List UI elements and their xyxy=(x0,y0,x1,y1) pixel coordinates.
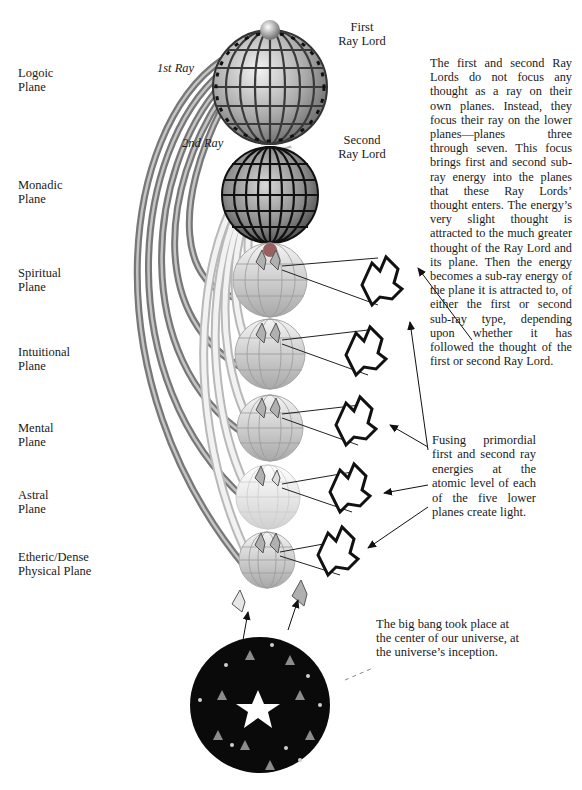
lower-plane-globes xyxy=(233,243,307,588)
plane-label-monadic: Monadic Plane xyxy=(18,178,62,206)
first-ray-lord-label: First Ray Lord xyxy=(326,20,398,48)
plane-label-intuitional: Intuitional Plane xyxy=(18,345,70,373)
plane-label-etheric: Etheric/Dense Physical Plane xyxy=(18,550,91,578)
crown-knob xyxy=(260,20,280,40)
intuitional-globe xyxy=(235,319,305,389)
astral-globe xyxy=(236,465,300,529)
plane-label-logoic: Logoic Plane xyxy=(18,66,53,94)
ray-lords-description: The first and second Ray Lords do not fo… xyxy=(430,56,572,368)
plane-label-astral: Astral Plane xyxy=(18,488,49,516)
big-bang-leader xyxy=(345,668,373,680)
plane-label-mental: Mental Plane xyxy=(18,421,53,449)
universe-disc xyxy=(190,637,330,773)
second-ray-lord-label: Second Ray Lord xyxy=(326,133,398,161)
big-bang-note: The big bang took place at the center of… xyxy=(376,617,526,659)
second-ray-lord-globe xyxy=(222,147,318,243)
first-ray-label: 1st Ray xyxy=(157,61,194,76)
second-ray-label: 2nd Ray xyxy=(182,136,223,151)
etheric-globe xyxy=(239,532,295,588)
spiritual-globe xyxy=(233,243,307,317)
plane-label-spiritual: Spiritual Plane xyxy=(18,266,61,294)
first-ray-lord-globe xyxy=(213,20,327,144)
mental-globe xyxy=(237,395,303,461)
fusing-note: Fusing primordial first and second ray e… xyxy=(432,433,536,519)
